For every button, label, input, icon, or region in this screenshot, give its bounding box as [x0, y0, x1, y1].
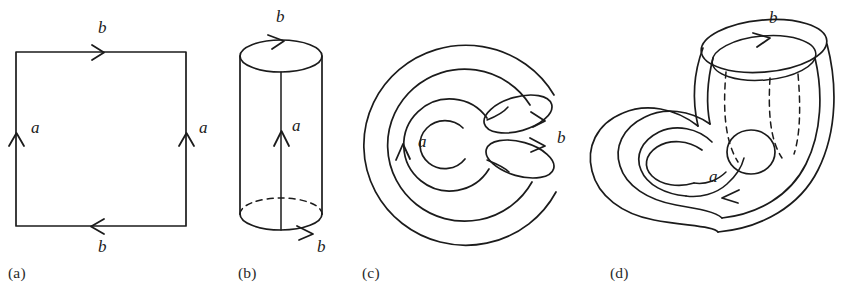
- klein-self-intersection-hole: [727, 130, 775, 174]
- panel-a-square: [9, 45, 194, 234]
- label-a-bottom-b: b: [98, 237, 107, 256]
- panel-caption-b: (b): [238, 264, 257, 282]
- arrow-a-klein-icon: [722, 190, 739, 203]
- label-c-a: a: [418, 132, 427, 151]
- label-b-top-b: b: [276, 7, 285, 26]
- klein-loop-hole: [646, 142, 702, 186]
- tube-opening-lower: [482, 133, 559, 185]
- klein-top-rim-inner: [710, 32, 817, 85]
- panel-caption-d: (d): [610, 264, 629, 282]
- panel-caption-a: (a): [8, 264, 26, 282]
- panel-c-bent-tube: [364, 45, 559, 245]
- tube-opening-upper: [480, 88, 557, 140]
- label-a-top-b: b: [98, 18, 107, 37]
- klein-neck-hidden-right2: [794, 74, 800, 154]
- klein-neck-left-inner: [708, 58, 713, 124]
- label-b-bottom-b: b: [317, 237, 326, 256]
- klein-top-rim-outer: [699, 15, 829, 78]
- label-d-b: b: [769, 8, 778, 27]
- klein-body-right-inner: [722, 58, 820, 218]
- label-c-b: b: [557, 128, 566, 147]
- cylinder-top-rim: [240, 40, 322, 72]
- panel-d-klein-bottle: [590, 15, 834, 232]
- arrow-b-upper-icon: [531, 112, 545, 127]
- tube-middle-arc: [388, 69, 532, 221]
- label-d-a: a: [709, 167, 718, 186]
- panel-caption-c: (c): [362, 264, 380, 282]
- panel-b-cylinder: [240, 35, 322, 240]
- label-a-right-a: a: [199, 118, 208, 137]
- tube-outer-arc: [364, 45, 556, 245]
- tube-inner-arc-outer: [404, 99, 489, 191]
- square-outline: [16, 52, 186, 226]
- figure-canvas: b a a b b a b a b b a: [0, 0, 850, 299]
- tube-inner-arc-inner: [420, 121, 465, 169]
- arrow-b-bottom-icon: [297, 226, 313, 240]
- klein-neck-hidden-right: [769, 78, 782, 158]
- klein-bottle-figure: b a a b b a b a b b a (a) (b) (c) (d): [0, 0, 850, 299]
- label-b-seam-a: a: [292, 116, 301, 135]
- klein-loop-outer: [590, 108, 718, 232]
- arrow-b-top-icon: [268, 35, 284, 49]
- tube-connector-lower: [487, 160, 509, 172]
- klein-loop-middle: [618, 111, 722, 218]
- label-a-left-a: a: [31, 118, 40, 137]
- klein-neck-left-outer: [695, 48, 703, 126]
